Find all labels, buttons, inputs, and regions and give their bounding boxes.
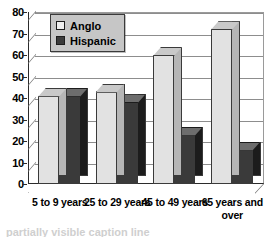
y-axis-tick (22, 120, 27, 121)
light-square-swatch-icon (56, 21, 65, 30)
bar-anglo-3 (211, 29, 232, 184)
bar-front-face (96, 92, 117, 184)
chart-floor (28, 183, 264, 192)
bar-side-face (117, 84, 125, 176)
x-axis-labels: 5 to 9 years25 to 29 years45 to 49 years… (28, 196, 266, 230)
y-axis-tick (22, 34, 27, 35)
bar-group (211, 12, 269, 184)
y-axis-tick (22, 184, 27, 185)
bar-side-face (80, 88, 88, 176)
bar-side-face (174, 47, 182, 176)
bar-side-face (59, 88, 67, 176)
legend-item-anglo: Anglo (56, 18, 116, 33)
bar-front-face (211, 29, 232, 184)
bar-chart: 01020304050607080 Anglo Hispanic 5 to 9 … (0, 0, 270, 237)
y-axis-tick (22, 141, 27, 142)
legend-label-anglo: Anglo (70, 20, 101, 32)
bar-side-face (232, 21, 240, 176)
clipped-caption: partially visible caption line (0, 228, 270, 237)
y-axis-tick (22, 98, 27, 99)
y-axis-tick (22, 12, 27, 13)
y-axis-tick (22, 163, 27, 164)
legend: Anglo Hispanic (50, 14, 125, 52)
bar-anglo-2 (153, 55, 174, 184)
y-axis-tick (22, 77, 27, 78)
dark-square-swatch-icon (56, 36, 65, 45)
bar-anglo-1 (96, 92, 117, 184)
legend-label-hispanic: Hispanic (70, 35, 116, 47)
bar-side-face (138, 94, 146, 176)
legend-item-hispanic: Hispanic (56, 33, 116, 48)
bar-front-face (153, 55, 174, 184)
clipped-caption-text: partially visible caption line (6, 228, 270, 237)
x-axis-label: 65 years and over (197, 196, 269, 222)
bar-front-face (38, 96, 59, 184)
y-axis-tick (22, 55, 27, 56)
bar-group (153, 12, 211, 184)
bar-anglo-0 (38, 96, 59, 184)
